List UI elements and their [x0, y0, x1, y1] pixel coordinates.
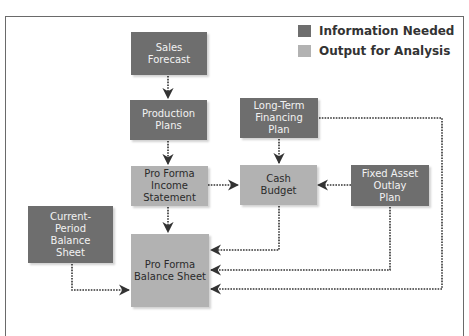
node-label: Production Plans: [142, 108, 195, 132]
node-label: Fixed Asset Outlay Plan: [362, 168, 418, 204]
node-cash-budget: Cash Budget: [240, 165, 317, 205]
node-production-plans: Production Plans: [130, 100, 207, 140]
node-long-term-financing-plan: Long-Term Financing Plan: [240, 98, 318, 138]
node-label: Pro Forma Balance Sheet: [134, 259, 206, 283]
node-pro-forma-balance-sheet: Pro Forma Balance Sheet: [131, 234, 209, 307]
node-label: Sales Forecast: [148, 42, 190, 66]
node-current-period-balance-sheet: Current- Period Balance Sheet: [28, 206, 113, 263]
node-label: Cash Budget: [261, 173, 297, 197]
node-label: Pro Forma Income Statement: [143, 168, 196, 204]
node-sales-forecast: Sales Forecast: [131, 32, 207, 75]
node-fixed-asset-outlay-plan: Fixed Asset Outlay Plan: [351, 165, 429, 206]
node-pro-forma-income-statement: Pro Forma Income Statement: [131, 166, 208, 206]
node-label: Current- Period Balance Sheet: [50, 211, 91, 259]
node-label: Long-Term Financing Plan: [253, 100, 304, 136]
